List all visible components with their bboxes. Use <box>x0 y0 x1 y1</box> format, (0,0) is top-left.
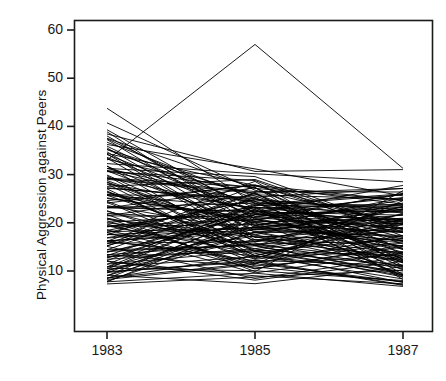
y-tick-label: 40 <box>33 117 63 133</box>
y-tick-label: 60 <box>33 21 63 37</box>
x-axis-ticks <box>107 332 403 340</box>
y-tick-label: 50 <box>33 69 63 85</box>
x-tick-label: 1983 <box>77 342 137 358</box>
y-axis-ticks <box>67 30 75 271</box>
y-tick-label: 30 <box>33 166 63 182</box>
figure-container: Physical Aggression against Peers 605040… <box>0 0 446 381</box>
y-tick-label: 20 <box>33 214 63 230</box>
x-tick-label: 1987 <box>373 342 433 358</box>
x-tick-label: 1985 <box>225 342 285 358</box>
y-axis-label: Physical Aggression against Peers <box>34 0 58 300</box>
y-tick-label: 10 <box>33 262 63 278</box>
spaghetti-plot-svg <box>0 0 446 381</box>
